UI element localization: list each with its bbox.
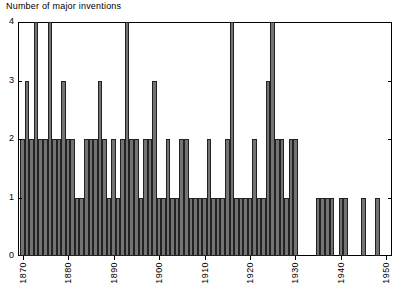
bar: [343, 198, 348, 257]
x-tick-label: 1890: [109, 262, 119, 284]
y-tick-mark-right: [388, 139, 392, 140]
x-tick-label: 1920: [245, 262, 255, 284]
bar: [293, 139, 298, 256]
x-tick-mark: [341, 256, 342, 260]
discoveries-bar-chart: Number of major inventions 0123418701880…: [0, 0, 402, 291]
y-tick-mark-right: [388, 81, 392, 82]
y-tick-mark: [18, 139, 22, 140]
x-tick-label: 1910: [200, 262, 210, 284]
y-tick-label: 4: [0, 16, 14, 26]
x-tick-label: 1870: [18, 262, 28, 284]
x-tick-mark: [205, 256, 206, 260]
x-tick-label: 1950: [381, 262, 391, 284]
x-tick-mark: [159, 256, 160, 260]
bar: [361, 198, 366, 257]
y-tick-label: 2: [0, 133, 14, 143]
y-tick-label: 0: [0, 250, 14, 260]
y-tick-mark-right: [388, 198, 392, 199]
x-tick-label: 1880: [63, 262, 73, 284]
y-tick-mark: [18, 81, 22, 82]
y-axis-title: Number of major inventions: [6, 1, 121, 11]
x-tick-label: 1930: [290, 262, 300, 284]
y-tick-label: 1: [0, 192, 14, 202]
x-tick-mark: [295, 256, 296, 260]
bar: [330, 198, 335, 257]
x-tick-mark: [23, 256, 24, 260]
x-tick-label: 1940: [336, 262, 346, 284]
y-tick-label: 3: [0, 75, 14, 85]
x-tick-mark: [68, 256, 69, 260]
x-tick-label: 1900: [154, 262, 164, 284]
bar: [375, 198, 380, 257]
x-tick-mark: [114, 256, 115, 260]
y-tick-mark: [18, 198, 22, 199]
x-tick-mark: [386, 256, 387, 260]
plot-area: [18, 22, 391, 256]
x-tick-mark: [250, 256, 251, 260]
